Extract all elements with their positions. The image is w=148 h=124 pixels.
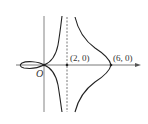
curve-branch-upper-left — [44, 16, 62, 65]
curve-branch-lower-left — [44, 65, 62, 112]
curve-branch-right — [75, 17, 111, 112]
point-6-0 — [110, 64, 113, 67]
point-label-2-0: (2, 0) — [70, 53, 90, 63]
origin-label: O — [36, 68, 43, 79]
x-axis-arrow-icon — [135, 63, 141, 67]
point-label-6-0: (6, 0) — [113, 53, 133, 63]
point-2-0 — [66, 64, 69, 67]
function-graph: O (2, 0) (6, 0) — [0, 0, 148, 124]
point-origin — [43, 64, 46, 67]
